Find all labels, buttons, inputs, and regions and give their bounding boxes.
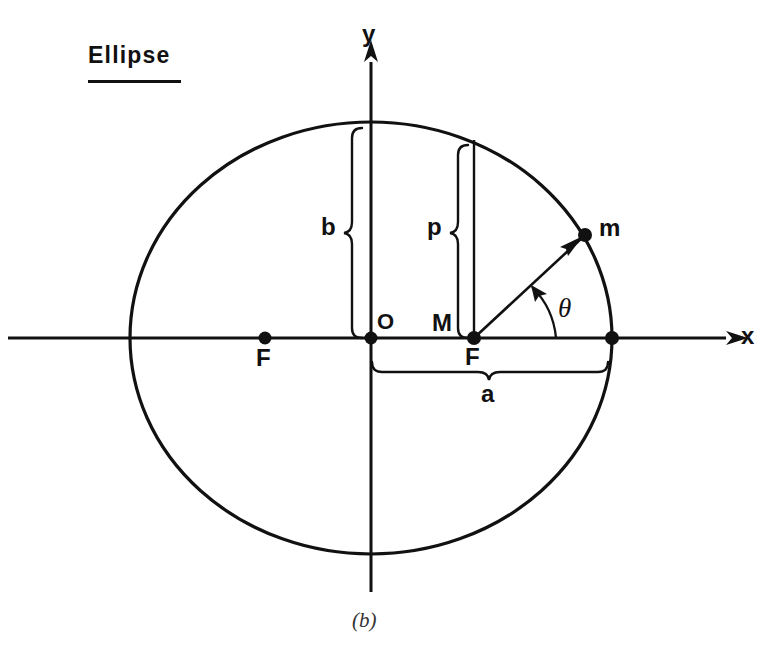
angle-theta-label: θ <box>558 295 571 322</box>
semi-latus-rectum-label: p <box>427 215 442 239</box>
figure-caption: (b) <box>352 608 377 633</box>
point-origin <box>365 332 378 345</box>
brace-semi-minor-b <box>344 128 362 338</box>
left-focus-label: F <box>256 346 271 370</box>
ellipse-figure: Ellipse y x O b p a M <box>0 0 775 668</box>
point-orbiting-body-m <box>578 228 592 242</box>
ellipse-diagram-canvas <box>0 0 775 668</box>
y-axis-label: y <box>362 22 375 46</box>
origin-label: O <box>377 311 394 333</box>
point-right-vertex <box>605 331 619 345</box>
right-focus-label: F <box>465 345 480 369</box>
semi-major-axis-label: a <box>481 382 494 406</box>
semi-minor-axis-label: b <box>321 215 336 239</box>
point-left-focus <box>259 332 272 345</box>
angle-theta-arrowhead <box>531 285 547 302</box>
x-axis-label: x <box>741 324 754 348</box>
brace-semi-latus-rectum-p <box>450 145 468 338</box>
foot-point-label: M <box>432 311 452 335</box>
brace-semi-major-a <box>372 362 608 380</box>
orbiting-body-label: m <box>599 216 620 240</box>
